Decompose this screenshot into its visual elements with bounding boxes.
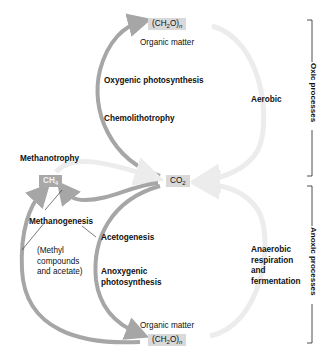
methanogenesis-label: Methanogenesis xyxy=(29,217,93,227)
formula-text: (CH xyxy=(152,19,167,28)
formula-sub: n xyxy=(179,23,182,29)
note-line: and acetate) xyxy=(37,267,83,278)
methanogenesis-pointer-3 xyxy=(82,226,96,237)
label-line: and xyxy=(251,266,301,277)
methanotrophy-label: Methanotrophy xyxy=(20,154,79,164)
anoxic-processes-label: Anoxic processes xyxy=(309,227,318,295)
note-line: (Methyl xyxy=(37,246,83,257)
formula-text: CH xyxy=(43,176,55,185)
formula-sub: n xyxy=(179,339,182,345)
label-line: Anoxygenic xyxy=(101,267,162,278)
label-line: fermentation xyxy=(251,277,301,288)
formula-text: CO xyxy=(170,176,182,185)
oxygenic-photosynthesis-label: Oxygenic photosynthesis xyxy=(104,76,204,86)
label-line: photosynthesis xyxy=(101,278,162,289)
anaerobic-respiration-label: Anaerobic respiration and fermentation xyxy=(251,245,301,287)
organic-matter-bottom-box: (CH2O)n xyxy=(148,334,186,346)
acetogenesis-label: Acetogenesis xyxy=(101,233,154,243)
formula-sub: 4 xyxy=(55,180,58,186)
formula-text: (CH xyxy=(152,335,167,344)
co2-box: CO2 xyxy=(166,175,190,187)
carbon-cycle-diagram: (CH2O)n Organic matter Oxygenic photosyn… xyxy=(0,0,331,357)
label-line: respiration xyxy=(251,256,301,267)
methanogenesis-pointer-1 xyxy=(45,190,62,210)
ch4-box: CH4 xyxy=(39,175,62,187)
aerobic-label: Aerobic xyxy=(251,95,281,105)
label-line: Anaerobic xyxy=(251,245,301,256)
chemolithotrophy-label: Chemolithotrophy xyxy=(104,114,175,124)
methyl-compounds-note: (Methyl compounds and acetate) xyxy=(37,246,83,278)
formula-text: O) xyxy=(170,335,179,344)
anoxic-fixation-arrow xyxy=(95,186,160,333)
formula-sub: 2 xyxy=(182,180,185,186)
anoxygenic-photosynthesis-label: Anoxygenic photosynthesis xyxy=(101,267,162,288)
organic-matter-top-box: (CH2O)n xyxy=(148,18,186,30)
organic-matter-top-caption: Organic matter xyxy=(140,38,194,48)
formula-text: O) xyxy=(170,19,179,28)
oxic-processes-label: Oxic processes xyxy=(309,63,318,122)
note-line: compounds xyxy=(37,257,83,268)
organic-matter-bottom-caption: Organic matter xyxy=(140,321,194,331)
